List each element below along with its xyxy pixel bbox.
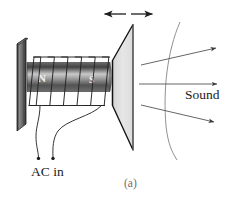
sound-ray-lower <box>141 105 214 122</box>
lead-wires <box>36 106 101 161</box>
mounting-plate-face <box>17 38 26 131</box>
mounting-plate <box>17 38 28 131</box>
lead-wire-right <box>53 106 101 157</box>
ac-terminal-right <box>51 157 54 160</box>
figure-caption: (a) <box>124 178 137 190</box>
ac-in-label: AC in <box>31 165 64 179</box>
speaker-cone-body <box>113 25 134 151</box>
sound-ray-upper <box>141 48 216 65</box>
sound-rays <box>139 48 217 122</box>
sound-label: Sound <box>185 88 220 102</box>
speaker-cone <box>113 25 134 151</box>
speaker-diagram-figure: N S <box>0 0 235 200</box>
lead-wire-left <box>36 106 40 158</box>
ac-terminal-left <box>37 157 40 160</box>
sound-wavefront <box>165 22 180 160</box>
wavefront-arc <box>165 22 180 160</box>
